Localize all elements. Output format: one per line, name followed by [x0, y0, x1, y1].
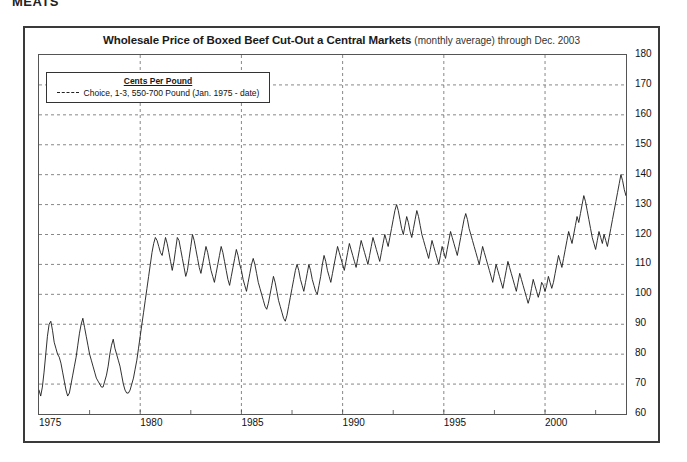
x-axis-tick-1995: 1995 [444, 418, 466, 428]
chart-title-sub: (monthly average) through Dec. 2003 [414, 35, 580, 46]
chart-legend: Cents Per Pound Choice, 1-3, 550-700 Pou… [46, 72, 270, 103]
plot-area [38, 54, 627, 415]
x-axis-tick-1985: 1985 [241, 418, 263, 428]
x-axis-tick-1980: 1980 [140, 418, 162, 428]
y-axis-tick-110: 110 [635, 258, 651, 268]
y-axis-tick-140: 140 [635, 169, 652, 179]
dashed-line-swatch-icon [57, 92, 79, 94]
axis-tick-marks [90, 410, 596, 414]
y-axis-tick-80: 80 [635, 348, 646, 358]
chart-title-main: Wholesale Price of Boxed Beef Cut-Out a … [103, 34, 411, 46]
horizontal-gridlines [39, 85, 626, 384]
chart-title: Wholesale Price of Boxed Beef Cut-Out a … [25, 34, 658, 46]
y-axis-tick-130: 130 [635, 199, 652, 209]
y-axis-tick-70: 70 [635, 378, 646, 388]
x-axis-tick-1975: 1975 [39, 418, 61, 428]
legend-entry: Choice, 1-3, 550-700 Pound (Jan. 1975 - … [47, 88, 269, 98]
page-header: MEATS [12, 0, 59, 6]
legend-title: Cents Per Pound [47, 76, 269, 86]
y-axis-tick-100: 100 [635, 288, 652, 298]
plot-svg [39, 55, 626, 414]
y-axis-tick-150: 150 [635, 139, 652, 149]
x-axis-tick-1990: 1990 [343, 418, 365, 428]
x-axis-tick-2000: 2000 [545, 418, 567, 428]
legend-series-label: Choice, 1-3, 550-700 Pound (Jan. 1975 - … [84, 88, 260, 98]
series-line-choice-1-3 [39, 67, 626, 396]
chart-figure: Wholesale Price of Boxed Beef Cut-Out a … [23, 26, 660, 443]
y-axis-tick-180: 180 [635, 49, 652, 59]
y-axis-tick-90: 90 [635, 318, 646, 328]
y-axis-tick-60: 60 [635, 408, 646, 418]
y-axis-tick-160: 160 [635, 109, 652, 119]
y-axis-tick-120: 120 [635, 229, 652, 239]
y-axis-tick-170: 170 [635, 79, 652, 89]
